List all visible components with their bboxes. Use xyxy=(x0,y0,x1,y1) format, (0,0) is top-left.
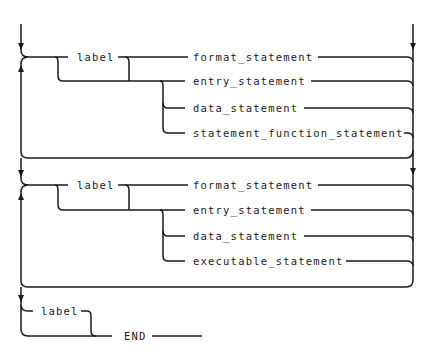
block2-alt-format: format_statement xyxy=(193,179,313,192)
arrow-down-icon xyxy=(18,43,24,50)
final-end-terminal: END xyxy=(124,330,147,342)
block2-return-line xyxy=(21,280,413,287)
block1-entry-exit xyxy=(311,81,413,86)
block1-label-branch xyxy=(125,57,129,81)
block1-bypass-label xyxy=(55,57,185,81)
arrow-up-icon xyxy=(18,65,24,72)
block2-start-path xyxy=(21,178,68,185)
block1-alt-data: data_statement xyxy=(193,102,298,115)
block1-data-exit xyxy=(304,108,413,113)
block2-format-exit xyxy=(318,185,413,190)
block2-entry-exit xyxy=(311,210,413,215)
block1-stmtfunc-exit xyxy=(404,133,413,138)
arrow-up-icon xyxy=(18,193,24,200)
final-label-exit xyxy=(81,311,96,336)
syntax-diagram: label format_statement entry_statement d… xyxy=(0,0,430,357)
block2-bypass-label xyxy=(55,185,185,210)
arrow-down-icon xyxy=(18,295,24,302)
arrow-down-icon xyxy=(410,43,416,50)
final-label-entry xyxy=(21,305,33,311)
block2-exec-exit xyxy=(346,261,413,266)
block1-alt-format: format_statement xyxy=(193,51,313,64)
block1-label: label xyxy=(77,51,115,63)
arrow-down-icon xyxy=(410,168,416,175)
block1-return-line xyxy=(21,150,413,158)
block1-format-exit xyxy=(318,57,413,62)
block1-alt-stmtfunc: statement_function_statement xyxy=(193,127,404,140)
block2-alt-entry: entry_statement xyxy=(193,204,306,217)
block1-alt-entry: entry_statement xyxy=(193,75,306,88)
block2-alt-data: data_statement xyxy=(193,230,298,243)
block2-data-exit xyxy=(304,236,413,241)
arrow-down-icon xyxy=(18,170,24,177)
block1-start-path xyxy=(21,50,68,57)
block2-label: label xyxy=(77,179,115,191)
block2-alt-exec: executable_statement xyxy=(193,255,343,268)
final-label: label xyxy=(41,305,79,317)
block2-label-branch xyxy=(125,185,129,210)
